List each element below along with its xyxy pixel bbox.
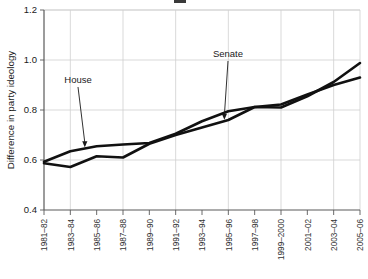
x-tick-label-1: 1983–84 [67,219,76,251]
annotation-label-house: House [64,74,91,85]
annotation-arrowhead-senate [222,114,227,120]
y-axis-tick-labels: 0.40.60.81.01.2 [24,4,37,215]
x-tick-label-12: 2005–06 [356,219,365,251]
y-axis-title: Difference in party ideology [5,51,16,170]
annotations: HouseSenate [64,48,243,147]
x-axis-tick-labels: 1981–821983–841985–861987–881989–901991–… [40,219,365,260]
x-tick-label-4: 1989–90 [146,219,155,251]
annotation-label-senate: Senate [213,48,243,59]
line-chart: 0.40.60.81.01.2 1981–821983–841985–86198… [0,0,368,279]
annotation-arrowhead-house [82,141,87,147]
x-axis-ticks [44,210,360,215]
x-tick-label-7: 1995–96 [225,219,234,251]
x-tick-label-2: 1985–86 [93,219,102,251]
annotation-leader-house [78,87,85,143]
y-tick-label-2: 0.8 [24,104,37,115]
annotation-leader-senate [224,61,228,115]
y-tick-label-3: 1.0 [24,54,37,65]
x-tick-label-9: 1999–2000 [277,219,286,260]
x-tick-label-10: 2001–02 [304,219,313,251]
gridlines [44,10,360,210]
x-tick-label-6: 1993–94 [198,219,207,251]
chart-figure: 0.40.60.81.01.2 1981–821983–841985–86198… [0,0,368,279]
x-tick-label-0: 1981–82 [40,219,49,251]
x-tick-label-8: 1997–98 [251,219,260,251]
x-tick-label-3: 1987–88 [119,219,128,251]
series-line-house [44,78,360,162]
y-tick-label-0: 0.4 [24,204,37,215]
x-tick-label-5: 1991–92 [172,219,181,251]
y-tick-label-1: 0.6 [24,154,37,165]
y-tick-label-4: 1.2 [24,4,37,15]
x-tick-label-11: 2003–04 [330,219,339,251]
